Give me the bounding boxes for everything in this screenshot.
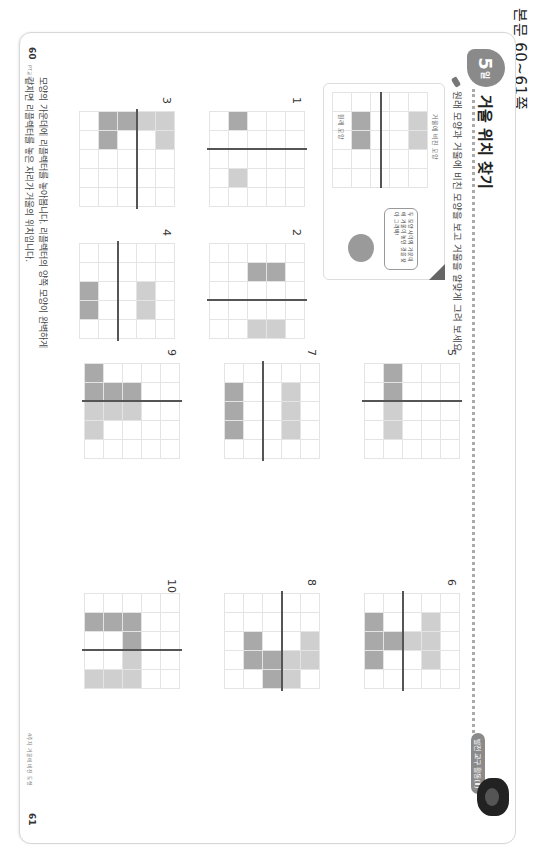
grid-cell[interactable]	[136, 188, 155, 207]
grid-cell[interactable]	[155, 320, 174, 339]
grid-cell[interactable]	[122, 613, 141, 632]
grid-cell[interactable]	[247, 150, 266, 169]
grid-cell[interactable]	[79, 112, 98, 131]
grid-cell[interactable]	[79, 244, 98, 263]
problem-grid[interactable]	[79, 111, 175, 207]
grid-cell[interactable]	[300, 594, 319, 613]
grid-cell[interactable]	[262, 383, 281, 402]
grid-cell[interactable]	[98, 188, 117, 207]
grid-cell[interactable]	[160, 670, 179, 689]
grid-cell[interactable]	[136, 263, 155, 282]
grid-cell[interactable]	[332, 150, 351, 169]
grid-cell[interactable]	[285, 320, 304, 339]
problem-grid[interactable]	[224, 363, 320, 459]
grid-cell[interactable]	[243, 383, 262, 402]
grid-cell[interactable]	[141, 402, 160, 421]
grid-cell[interactable]	[141, 421, 160, 440]
grid-cell[interactable]	[103, 613, 122, 632]
grid-cell[interactable]	[364, 421, 383, 440]
grid-cell[interactable]	[300, 613, 319, 632]
grid-cell[interactable]	[209, 169, 228, 188]
grid-cell[interactable]	[98, 282, 117, 301]
grid-cell[interactable]	[402, 613, 421, 632]
grid-cell[interactable]	[383, 421, 402, 440]
grid-cell[interactable]	[285, 263, 304, 282]
grid-cell[interactable]	[228, 301, 247, 320]
grid-cell[interactable]	[243, 440, 262, 459]
grid-cell[interactable]	[262, 594, 281, 613]
grid-cell[interactable]	[155, 150, 174, 169]
grid-cell[interactable]	[364, 651, 383, 670]
grid-cell[interactable]	[224, 632, 243, 651]
grid-cell[interactable]	[103, 364, 122, 383]
grid-cell[interactable]	[224, 364, 243, 383]
grid-cell[interactable]	[285, 169, 304, 188]
grid-cell[interactable]	[408, 131, 427, 150]
grid-cell[interactable]	[383, 402, 402, 421]
problem-grid[interactable]	[209, 111, 305, 207]
grid-cell[interactable]	[383, 364, 402, 383]
grid-cell[interactable]	[332, 169, 351, 188]
grid-cell[interactable]	[79, 150, 98, 169]
grid-cell[interactable]	[281, 651, 300, 670]
grid-cell[interactable]	[285, 112, 304, 131]
grid-cell[interactable]	[228, 320, 247, 339]
grid-cell[interactable]	[421, 651, 440, 670]
grid-cell[interactable]	[98, 320, 117, 339]
grid-cell[interactable]	[79, 282, 98, 301]
grid-cell[interactable]	[364, 364, 383, 383]
grid-cell[interactable]	[155, 131, 174, 150]
grid-cell[interactable]	[84, 364, 103, 383]
grid-cell[interactable]	[247, 112, 266, 131]
grid-cell[interactable]	[389, 169, 408, 188]
grid-cell[interactable]	[122, 594, 141, 613]
grid-cell[interactable]	[79, 188, 98, 207]
grid-cell[interactable]	[266, 188, 285, 207]
grid-cell[interactable]	[402, 651, 421, 670]
grid-cell[interactable]	[155, 301, 174, 320]
grid-cell[interactable]	[122, 670, 141, 689]
grid-cell[interactable]	[408, 93, 427, 112]
grid-cell[interactable]	[402, 402, 421, 421]
grid-cell[interactable]	[136, 150, 155, 169]
grid-cell[interactable]	[160, 594, 179, 613]
grid-cell[interactable]	[364, 613, 383, 632]
grid-cell[interactable]	[262, 613, 281, 632]
grid-cell[interactable]	[228, 263, 247, 282]
grid-cell[interactable]	[141, 670, 160, 689]
grid-cell[interactable]	[440, 632, 459, 651]
grid-cell[interactable]	[247, 301, 266, 320]
grid-cell[interactable]	[266, 263, 285, 282]
grid-cell[interactable]	[266, 150, 285, 169]
grid-cell[interactable]	[440, 651, 459, 670]
grid-cell[interactable]	[209, 301, 228, 320]
grid-cell[interactable]	[300, 421, 319, 440]
grid-cell[interactable]	[402, 594, 421, 613]
grid-cell[interactable]	[383, 670, 402, 689]
grid-cell[interactable]	[224, 402, 243, 421]
grid-cell[interactable]	[122, 402, 141, 421]
grid-cell[interactable]	[408, 150, 427, 169]
grid-cell[interactable]	[228, 169, 247, 188]
grid-cell[interactable]	[247, 244, 266, 263]
grid-cell[interactable]	[389, 93, 408, 112]
grid-cell[interactable]	[402, 421, 421, 440]
grid-cell[interactable]	[117, 150, 136, 169]
grid-cell[interactable]	[228, 112, 247, 131]
grid-cell[interactable]	[266, 112, 285, 131]
grid-cell[interactable]	[228, 188, 247, 207]
grid-cell[interactable]	[440, 613, 459, 632]
problem-grid[interactable]	[364, 593, 460, 689]
grid-cell[interactable]	[209, 320, 228, 339]
grid-cell[interactable]	[281, 383, 300, 402]
problem-grid[interactable]	[84, 593, 180, 689]
grid-cell[interactable]	[98, 131, 117, 150]
grid-cell[interactable]	[224, 421, 243, 440]
grid-cell[interactable]	[155, 282, 174, 301]
grid-cell[interactable]	[389, 150, 408, 169]
grid-cell[interactable]	[440, 364, 459, 383]
grid-cell[interactable]	[84, 651, 103, 670]
grid-cell[interactable]	[117, 112, 136, 131]
grid-cell[interactable]	[209, 188, 228, 207]
grid-cell[interactable]	[364, 632, 383, 651]
